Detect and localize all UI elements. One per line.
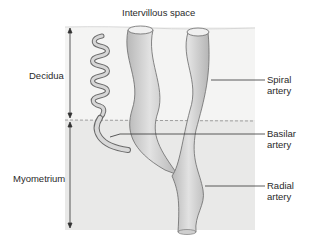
myometrium-layer [65,120,255,230]
decidua-label: Decidua [29,70,64,81]
radial-artery-label: Radial artery [267,180,294,202]
spiral-artery-label: Spiral artery [267,74,291,96]
radial-artery-end [178,230,196,235]
myometrium-label: Myometrium [13,173,65,184]
vessel-opening-right [187,28,209,36]
intervillous-space-label: Intervillous space [122,7,195,18]
basilar-artery-label: Basilar artery [267,128,296,150]
uteroplacental-circulation-diagram [0,0,310,243]
vessel-opening-left [128,26,153,34]
